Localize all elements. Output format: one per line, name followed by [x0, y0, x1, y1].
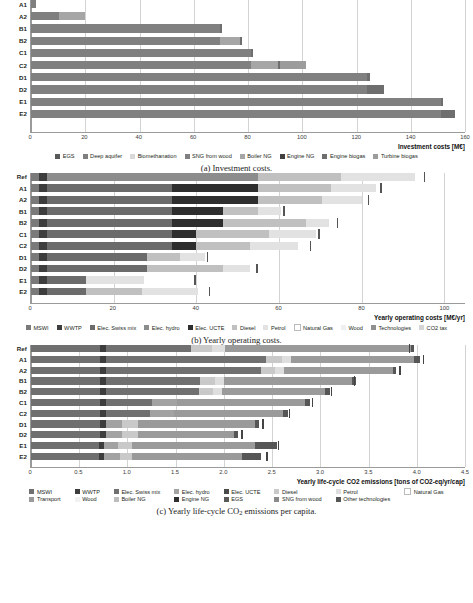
legend-item[interactable]: Elec. hydro	[144, 325, 179, 331]
total-marker	[368, 195, 369, 205]
stacked-bar[interactable]	[31, 377, 465, 384]
stacked-bar[interactable]	[31, 399, 465, 406]
stacked-bar[interactable]	[31, 431, 465, 438]
stacked-bar[interactable]	[31, 73, 465, 81]
legend-item[interactable]: Elec. UCTE	[224, 489, 261, 495]
legend-item[interactable]: Boiler NG	[240, 153, 272, 159]
x-tick-label: 40	[136, 134, 142, 140]
bar-segment	[47, 219, 172, 227]
stacked-bar[interactable]	[31, 0, 465, 8]
x-axis-title-c: Yearly life-cycle CO2 emissions [tons of…	[0, 478, 465, 485]
stacked-bar[interactable]	[31, 61, 465, 69]
legend-item[interactable]: Elec. Swiss mix	[90, 325, 136, 331]
legend-item[interactable]: Technologies	[371, 325, 411, 331]
x-tick-label: 4.5	[461, 469, 469, 475]
legend-item[interactable]: Other technologies	[336, 496, 390, 502]
legend-item[interactable]: SNG from wood	[274, 496, 321, 502]
bar-row: D2	[31, 85, 465, 93]
legend-item[interactable]: Elec. Swiss mix	[114, 489, 160, 495]
bar-segment	[305, 399, 310, 406]
bar-segment	[414, 356, 420, 363]
stacked-bar[interactable]	[31, 276, 465, 284]
stacked-bar[interactable]	[31, 388, 465, 395]
bar-segment	[104, 442, 118, 449]
bar-row: A1	[31, 0, 465, 8]
legend-item[interactable]: Elec. hydro	[174, 489, 209, 495]
bar-row-label: E2	[1, 110, 27, 117]
stacked-bar[interactable]	[31, 49, 465, 57]
stacked-bar[interactable]	[31, 230, 465, 238]
bar-segment	[39, 276, 46, 284]
stacked-bar[interactable]	[31, 184, 465, 192]
bar-row-label: B2	[1, 219, 27, 226]
legend-item[interactable]: Engine NG	[174, 496, 209, 502]
legend-item[interactable]: WWTP	[57, 325, 82, 331]
stacked-bar[interactable]	[31, 196, 465, 204]
stacked-bar[interactable]	[31, 453, 465, 460]
bar-segment	[142, 288, 198, 296]
bar-row: B1	[31, 377, 465, 384]
legend-item[interactable]: SNG from wood	[185, 153, 232, 159]
bar-segment	[31, 196, 39, 204]
stacked-bar[interactable]	[31, 265, 465, 273]
legend-item[interactable]: Diesel	[232, 325, 255, 331]
legend-swatch-icon	[29, 489, 34, 494]
stacked-bar[interactable]	[31, 98, 465, 106]
legend-swatch-icon	[371, 325, 376, 330]
stacked-bar[interactable]	[31, 37, 465, 45]
bar-segment	[31, 37, 220, 45]
legend-item[interactable]: Petrol	[263, 325, 285, 331]
legend-item[interactable]: Engine NG	[280, 153, 315, 159]
bar-segment	[31, 219, 39, 227]
legend-item[interactable]: EGS	[55, 153, 74, 159]
stacked-bar[interactable]	[31, 85, 465, 93]
stacked-bar[interactable]	[31, 420, 465, 427]
stacked-bar[interactable]	[31, 12, 465, 20]
bar-row-label: A1	[1, 356, 27, 363]
stacked-bar[interactable]	[31, 242, 465, 250]
stacked-bar[interactable]	[31, 207, 465, 215]
bar-segment	[250, 242, 298, 250]
legend-item[interactable]: Transport	[29, 496, 60, 502]
stacked-bar[interactable]	[31, 173, 465, 181]
x-tick-label: 0	[28, 134, 31, 140]
bar-row-label: B2	[1, 388, 27, 395]
legend-item[interactable]: Biomethanation	[130, 153, 176, 159]
bar-segment	[223, 207, 258, 215]
legend-item[interactable]: Elec. UCTE	[188, 325, 225, 331]
stacked-bar[interactable]	[31, 410, 465, 417]
legend-swatch-icon	[274, 489, 279, 494]
legend-item[interactable]: Engine biogas	[322, 153, 365, 159]
legend-item[interactable]: EGS	[224, 496, 261, 502]
stacked-bar[interactable]	[31, 219, 465, 227]
legend-item[interactable]: Wood	[341, 325, 363, 331]
legend-item[interactable]: Natural Gas	[294, 324, 333, 331]
legend-item[interactable]: MSWI	[29, 489, 60, 495]
legend-item[interactable]: MSWI	[26, 325, 49, 331]
x-axis-ticks-c: 00.51.01.52.02.53.03.54.04.5	[30, 468, 465, 478]
stacked-bar[interactable]	[31, 442, 465, 449]
stacked-bar[interactable]	[31, 110, 465, 118]
legend-item[interactable]: Wood	[75, 496, 100, 502]
stacked-bar[interactable]	[31, 288, 465, 296]
legend-item[interactable]: Petrol	[336, 489, 390, 495]
legend-item[interactable]: Boiler NG	[114, 496, 160, 502]
legend-item[interactable]: Diesel	[274, 489, 321, 495]
x-tick-label: 1.5	[171, 469, 179, 475]
legend-item[interactable]: WWTP	[75, 489, 100, 495]
bar-segment	[280, 61, 306, 69]
bar-segment	[240, 37, 242, 45]
legend-item[interactable]: CO2 tax	[419, 325, 447, 331]
total-marker	[266, 452, 267, 461]
legend-item[interactable]: Deep aquifer	[83, 153, 123, 159]
legend-label: Boiler NG	[121, 496, 145, 502]
stacked-bar[interactable]	[31, 24, 465, 32]
stacked-bar[interactable]	[31, 356, 465, 363]
bar-row-label: A1	[1, 1, 27, 8]
stacked-bar[interactable]	[31, 345, 465, 352]
stacked-bar[interactable]	[31, 253, 465, 261]
legend-item[interactable]: Natural Gas	[404, 488, 443, 495]
caption-b: (b) Yearly operating costs.	[0, 335, 473, 345]
x-tick-label: 2.0	[219, 469, 227, 475]
legend-item[interactable]: Turbine biogas	[373, 153, 417, 159]
